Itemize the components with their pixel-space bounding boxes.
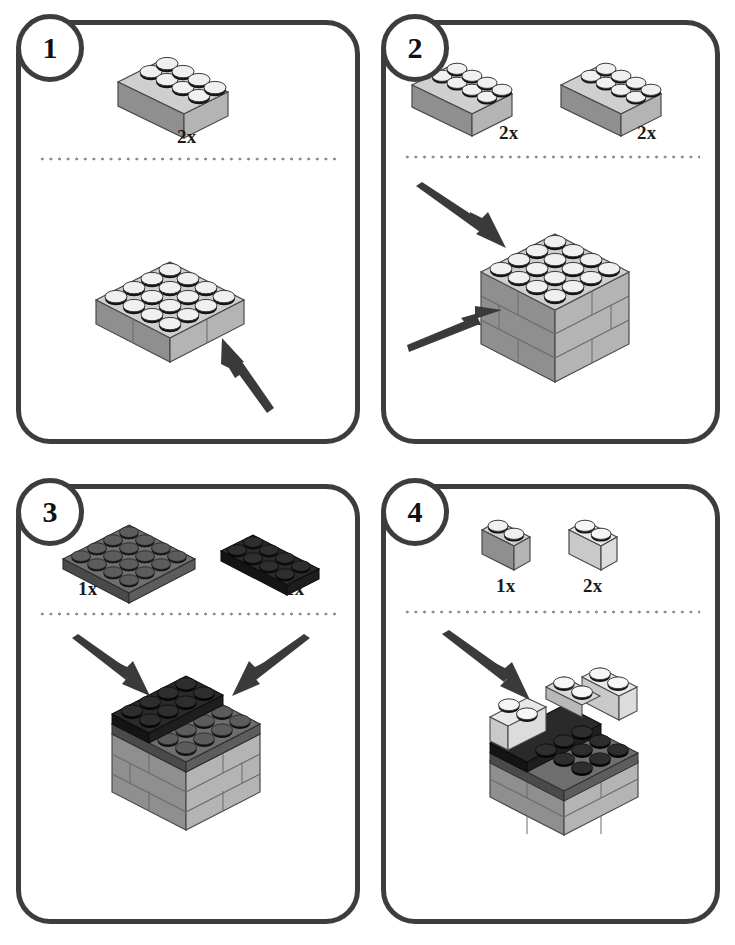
step-number-badge-1: 1	[16, 14, 84, 82]
part-quantity-label-p4-1: 2x	[583, 575, 603, 597]
panel-divider-2	[403, 155, 700, 159]
assembly-arrow-p3-1	[222, 634, 317, 702]
part-brick-2x4-p2-1	[561, 58, 681, 140]
assembly-arrow-p2-0	[414, 182, 514, 254]
part-quantity-label-p2-1: 2x	[637, 122, 657, 144]
part-quantity-label-p3-0: 1x	[78, 578, 98, 600]
panel-divider-1	[38, 157, 338, 161]
part-quantity-label-p2-0: 2x	[499, 122, 519, 144]
step-number-badge-4: 4	[381, 478, 449, 546]
part-brick-1x2-p4-1	[565, 515, 631, 577]
assembly-arrow-p3-0	[70, 634, 160, 702]
assembly-arrow-p1-0	[216, 334, 286, 414]
panel-divider-4	[403, 610, 700, 614]
assembly-arrow-p2-1	[407, 300, 512, 360]
assembly-arrow-p4-0	[440, 630, 540, 708]
step-number-badge-3: 3	[16, 478, 84, 546]
part-quantity-label-p4-0: 1x	[496, 575, 516, 597]
step-number-badge-2: 2	[381, 14, 449, 82]
panel-divider-3	[38, 612, 336, 616]
part-brick-1x2-p4-0	[478, 515, 544, 577]
part-quantity-label-p1-0: 2x	[177, 126, 197, 148]
part-quantity-label-p3-1: 1x	[285, 578, 305, 600]
instruction-sheet: 1 2x	[0, 0, 735, 945]
part-plate-2x4-p3	[219, 530, 334, 592]
